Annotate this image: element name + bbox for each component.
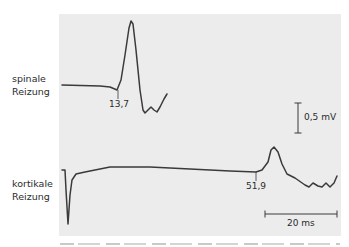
spinal-stimulation-label: spinale Reizung	[12, 72, 50, 98]
cortical-stimulation-label: kortikale Reizung	[12, 177, 53, 203]
chart-plot-area	[0, 0, 349, 247]
cortical-onset-label: 51,9	[246, 181, 266, 191]
cortical-stimulation-trace	[62, 147, 337, 224]
time-scale-bar	[265, 211, 337, 218]
spinal-onset-label: 13,7	[109, 99, 129, 109]
cortical-label-line2: Reizung	[12, 190, 53, 203]
spinal-label-line2: Reizung	[12, 85, 50, 98]
amplitude-scale-label: 0,5 mV	[304, 112, 336, 122]
time-scale-label: 20 ms	[287, 218, 315, 228]
cropped-caption	[60, 241, 340, 247]
spinal-label-line1: spinale	[12, 72, 50, 85]
amplitude-scale-bar	[295, 103, 302, 133]
cortical-label-line1: kortikale	[12, 177, 53, 190]
